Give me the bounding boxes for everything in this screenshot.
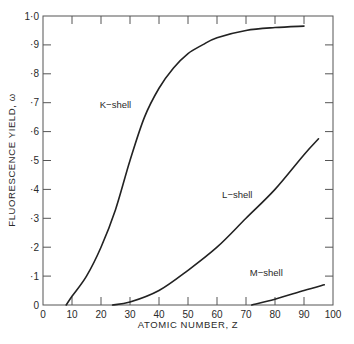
y-tick-label: ·2 <box>30 242 39 253</box>
series-label-l-shell: L−shell <box>222 189 252 200</box>
x-tick-label: 0 <box>40 309 46 320</box>
series-labels: K−shellL−shellM−shell <box>100 99 283 278</box>
series-line-m-shell <box>252 285 324 305</box>
series-label-k-shell: K−shell <box>100 99 131 110</box>
series-line-k-shell <box>66 26 304 305</box>
x-tick-label: 30 <box>124 309 136 320</box>
x-tick-label: 100 <box>325 309 342 320</box>
y-tick-label: ·1 <box>30 271 39 282</box>
plot-frame <box>43 16 333 305</box>
y-tick-label: ·6 <box>30 126 39 137</box>
x-tick-label: 70 <box>240 309 252 320</box>
x-tick-label: 20 <box>95 309 107 320</box>
y-tick-label: 0 <box>33 300 39 311</box>
x-axis: 0102030405060708090100 <box>40 16 342 320</box>
x-tick-label: 10 <box>66 309 78 320</box>
series-curves <box>66 26 324 305</box>
series-label-m-shell: M−shell <box>250 267 283 278</box>
series-line-l-shell <box>113 139 319 305</box>
x-tick-label: 80 <box>269 309 281 320</box>
x-tick-label: 90 <box>298 309 310 320</box>
y-tick-label: ·3 <box>30 213 39 224</box>
y-axis: 0·1·2·3·4·5·6·7·8·91·0 <box>25 11 333 311</box>
y-tick-label: ·8 <box>30 68 39 79</box>
y-tick-label: ·7 <box>30 97 39 108</box>
fluorescence-yield-chart: 0102030405060708090100 0·1·2·3·4·5·6·7·8… <box>0 0 354 344</box>
y-tick-label: ·9 <box>30 39 39 50</box>
y-tick-label: ·4 <box>30 184 39 195</box>
y-tick-label: ·5 <box>30 155 39 166</box>
y-tick-label: 1·0 <box>25 11 40 22</box>
x-axis-label: ATOMIC NUMBER, Z <box>138 319 239 330</box>
y-axis-label: FLUORESCENCE YIELD, ω <box>6 93 17 226</box>
